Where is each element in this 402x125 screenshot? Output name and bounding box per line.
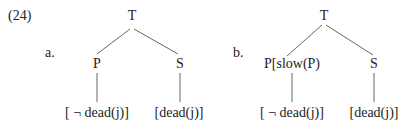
tree-a-label: a. <box>45 45 55 61</box>
tree-b-left-node: P[slow(P) <box>264 56 320 72</box>
tree-b-label: b. <box>233 45 244 61</box>
tree-a-right-leaf: [dead(j)] <box>155 105 204 121</box>
example-number: (24) <box>8 8 31 24</box>
tree-a-root-node: T <box>128 8 137 24</box>
edge-b-root-left <box>287 25 322 56</box>
tree-b-root-node: T <box>320 8 329 24</box>
tree-a-left-node: P <box>93 56 101 72</box>
tree-a-left-leaf: [ ¬ dead(j)] <box>65 105 129 121</box>
edge-b-root-right <box>326 25 373 55</box>
tree-b-right-node: S <box>370 56 378 72</box>
edge-a-root-right <box>134 29 178 54</box>
tree-a-right-node: S <box>176 56 184 72</box>
tree-b-left-leaf: [ ¬ dead(j)] <box>260 105 324 121</box>
tree-b-right-leaf: [dead(j)] <box>350 105 399 121</box>
edge-a-root-left <box>97 29 130 54</box>
